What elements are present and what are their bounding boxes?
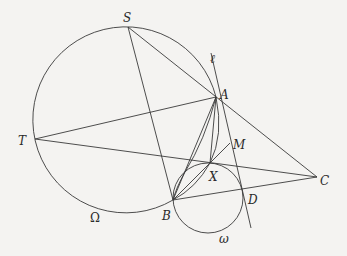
label-D: D <box>247 193 258 207</box>
label-T: T <box>18 134 27 148</box>
label-X: X <box>208 170 218 184</box>
line-B-M <box>173 143 230 200</box>
diagram-svg: S ℓ A T M X C D B Ω ω <box>0 0 347 256</box>
label-M: M <box>232 138 246 152</box>
line-S-B <box>128 27 173 200</box>
label-C: C <box>320 174 329 188</box>
label-S: S <box>123 11 131 25</box>
geometry-diagram: S ℓ A T M X C D B Ω ω <box>0 0 347 256</box>
label-B: B <box>161 209 171 223</box>
label-A: A <box>219 88 229 102</box>
line-B-C <box>173 177 317 200</box>
label-omega: ω <box>219 232 229 246</box>
line-T-C <box>35 139 317 177</box>
line-T-A <box>35 97 216 139</box>
label-ell: ℓ <box>210 52 215 66</box>
label-Omega: Ω <box>90 211 100 225</box>
